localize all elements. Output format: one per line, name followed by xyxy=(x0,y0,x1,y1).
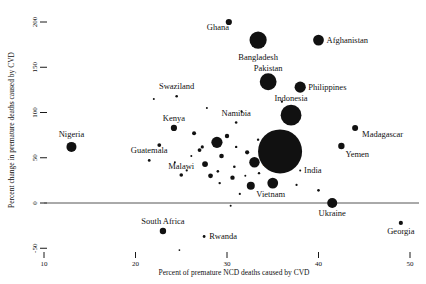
data-bubble xyxy=(219,154,224,159)
x-tick-label: 10 xyxy=(41,260,49,268)
data-bubble-vietnam xyxy=(267,178,278,189)
point-label-kenya: Kenya xyxy=(163,113,185,123)
point-label-georgia: Georgia xyxy=(387,226,414,236)
data-bubble-georgia xyxy=(399,221,403,225)
data-bubble xyxy=(198,148,202,152)
data-bubble xyxy=(201,145,204,148)
chart-svg: -50050100150200 1020304050 GhanaBanglade… xyxy=(0,0,426,284)
point-label-malawi: Malawi xyxy=(168,161,195,171)
y-axis-title: Percent change in premature deaths cause… xyxy=(7,51,16,208)
data-bubble xyxy=(153,98,155,100)
data-bubble-bangladesh xyxy=(250,31,267,48)
x-axis: 1020304050 xyxy=(41,252,415,268)
data-bubble-afghanistan xyxy=(313,35,324,46)
data-bubble xyxy=(190,155,192,157)
data-bubble xyxy=(208,173,213,178)
point-label-pakistan: Pakistan xyxy=(254,63,284,73)
data-bubble xyxy=(299,169,301,171)
y-tick-label: -50 xyxy=(31,243,39,253)
data-bubble xyxy=(202,161,208,167)
data-bubble xyxy=(235,146,237,148)
x-tick-label: 50 xyxy=(407,260,415,268)
data-bubble xyxy=(257,138,259,140)
point-label-south-africa: South Africa xyxy=(141,216,184,226)
data-bubble-philippines xyxy=(295,82,306,93)
data-bubble xyxy=(179,249,181,251)
data-bubble-madagascar xyxy=(352,125,358,131)
data-bubble xyxy=(217,170,220,173)
data-bubble xyxy=(225,134,229,138)
data-bubble-guatemala xyxy=(148,159,151,162)
data-bubbles xyxy=(66,19,403,251)
scatter-chart-figure: -50050100150200 1020304050 GhanaBanglade… xyxy=(0,0,426,284)
data-bubble xyxy=(230,205,232,207)
data-bubble xyxy=(239,193,241,195)
y-tick-label: 0 xyxy=(31,201,39,205)
point-label-rwanda: Rwanda xyxy=(209,231,237,241)
data-bubble-nigeria xyxy=(66,142,76,152)
data-bubble-swaziland xyxy=(175,95,178,98)
data-bubble-rwanda xyxy=(203,235,206,238)
point-label-vietnam: Vietnam xyxy=(256,189,285,199)
data-bubble-yemen xyxy=(338,143,344,149)
point-label-namibia: Namibia xyxy=(222,108,251,118)
data-bubble xyxy=(233,166,236,169)
data-bubble-south-africa xyxy=(160,228,166,234)
point-label-ghana: Ghana xyxy=(207,22,229,32)
data-bubble xyxy=(258,172,260,174)
data-bubble xyxy=(295,184,297,186)
y-tick-label: 50 xyxy=(31,154,39,162)
data-bubble xyxy=(206,107,208,109)
point-label-philippines: Philippines xyxy=(308,82,346,92)
point-label-india: India xyxy=(304,165,322,175)
point-label-myanmar: Myanmar xyxy=(262,158,295,168)
point-label-madagascar: Madagascar xyxy=(362,129,403,139)
point-label-nigeria: Nigeria xyxy=(59,129,85,139)
data-bubble-malawi xyxy=(179,173,183,177)
data-point-labels: GhanaBangladeshAfghanistanPakistanPhilip… xyxy=(59,22,415,241)
point-label-afghanistan: Afghanistan xyxy=(327,35,369,45)
y-tick-label: 100 xyxy=(31,107,39,118)
data-bubble xyxy=(218,182,220,184)
data-bubble xyxy=(192,131,196,135)
point-label-yemen: Yemen xyxy=(345,149,369,159)
point-label-bangladesh: Bangladesh xyxy=(238,52,278,62)
y-tick-label: 200 xyxy=(31,16,39,27)
y-tick-label: 150 xyxy=(31,62,39,73)
data-bubble xyxy=(247,182,255,190)
data-bubble xyxy=(317,189,320,192)
data-bubble-kenya xyxy=(171,125,177,131)
data-bubble xyxy=(245,150,249,154)
data-bubble-namibia xyxy=(235,121,238,124)
data-bubble-pakistan xyxy=(260,73,277,90)
point-label-swaziland: Swaziland xyxy=(159,81,195,91)
x-tick-label: 40 xyxy=(315,260,323,268)
data-bubble xyxy=(244,175,246,177)
y-axis: -50050100150200 xyxy=(31,16,47,253)
x-tick-label: 20 xyxy=(132,260,140,268)
data-bubble-indonesia xyxy=(281,105,302,126)
data-bubble xyxy=(211,137,222,148)
x-tick-label: 30 xyxy=(224,260,232,268)
data-bubble xyxy=(230,175,234,179)
point-label-guatemala: Guatemala xyxy=(131,145,168,155)
data-bubble-ukraine xyxy=(327,198,337,208)
point-label-ukraine: Ukraine xyxy=(319,208,347,218)
x-axis-title: Percent of premature NCD deaths caused b… xyxy=(159,268,311,277)
point-label-indonesia: Indonesia xyxy=(275,93,308,103)
data-bubble-myanmar xyxy=(249,157,259,167)
